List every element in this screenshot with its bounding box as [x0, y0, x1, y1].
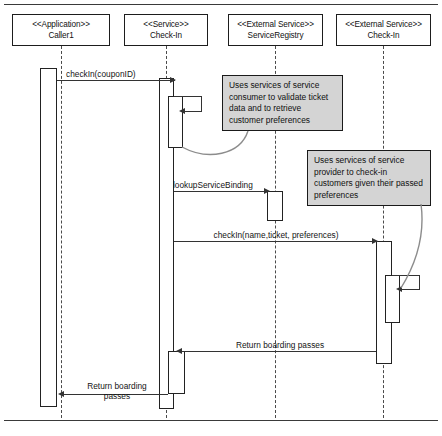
- activation-caller1: [40, 68, 57, 407]
- message-return-boarding-passes-2-label: Return boarding passes: [76, 381, 158, 401]
- message-selfcall-external-side: [419, 275, 420, 289]
- message-return-boarding-passes-1-arrowhead: [176, 348, 182, 354]
- lifeline-caller1: [61, 46, 62, 418]
- participant-external-checkin[interactable]: <<External Service>> Check-In: [336, 14, 431, 46]
- participant-name: Caller1: [13, 30, 109, 41]
- message-selfcall-service-bottom: [183, 111, 202, 112]
- participant-caller1[interactable]: <<Application>> Caller1: [12, 14, 110, 46]
- participant-name: Check-In: [337, 30, 430, 41]
- message-lookupservicebinding-line: [174, 191, 269, 192]
- participant-stereotype: <<Application>>: [13, 19, 109, 30]
- message-checkin-name-ticket-label: checkIn(name,ticket, preferences): [196, 230, 356, 240]
- message-checkin-name-ticket-line: [174, 241, 378, 242]
- activation-service-registry: [267, 191, 283, 221]
- message-checkin-couponid-label: checkIn(couponID): [66, 69, 176, 79]
- participant-service-checkin[interactable]: <<Service>> Check-In: [124, 14, 208, 46]
- note-service-provider-connector: [395, 204, 441, 292]
- message-return-boarding-passes-2-arrowhead: [58, 391, 64, 397]
- message-return-boarding-passes-1-line: [180, 351, 376, 352]
- message-checkin-couponid-line: [57, 80, 175, 81]
- note-service-provider: Uses services of service provider to che…: [307, 150, 431, 206]
- participant-stereotype: <<External Service>>: [337, 19, 430, 30]
- participant-service-registry[interactable]: <<External Service>> ServiceRegistry: [228, 14, 323, 46]
- message-checkin-name-ticket-arrowhead: [372, 238, 378, 244]
- diagram-bottom-border: [4, 420, 438, 421]
- participant-name: Check-In: [125, 30, 207, 41]
- message-selfcall-external-top: [392, 275, 420, 276]
- message-selfcall-service-arrowhead: [179, 108, 185, 114]
- message-selfcall-external-arrowhead: [396, 286, 402, 292]
- message-selfcall-service-top: [174, 96, 202, 97]
- message-selfcall-service-side: [201, 96, 202, 111]
- note-service-consumer: Uses services of service consumer to val…: [222, 75, 343, 131]
- note-service-consumer-connector: [180, 125, 250, 165]
- activation-external-checkin-selfcall: [385, 275, 400, 323]
- message-lookupservicebinding-label: lookupServiceBinding: [173, 180, 273, 190]
- message-selfcall-external-bottom: [400, 289, 420, 290]
- participant-name: ServiceRegistry: [229, 30, 322, 41]
- diagram-top-border: [4, 4, 438, 5]
- message-return-boarding-passes-1-label: Return boarding passes: [210, 340, 350, 350]
- participant-stereotype: <<External Service>>: [229, 19, 322, 30]
- participant-stereotype: <<Service>>: [125, 19, 207, 30]
- activation-service-checkin-return: [168, 351, 185, 394]
- sequence-diagram-canvas: <<Application>> Caller1 <<Service>> Chec…: [0, 0, 442, 436]
- activation-service-checkin-selfcall: [168, 96, 183, 148]
